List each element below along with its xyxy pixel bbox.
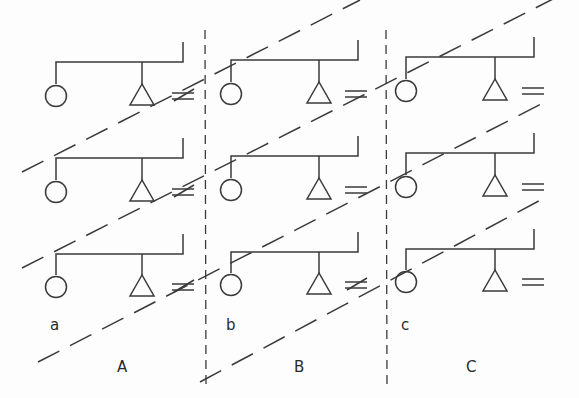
panels xyxy=(46,37,545,298)
panel-separator xyxy=(205,30,206,386)
panel-label-b: B xyxy=(294,358,304,376)
triangle-icon xyxy=(130,275,154,296)
triangle-icon xyxy=(483,79,507,100)
triangle-icon xyxy=(130,180,154,201)
equals-icon xyxy=(522,88,544,94)
sublabel-b: b xyxy=(226,316,236,334)
triangle-icon xyxy=(307,178,331,199)
panel-c xyxy=(396,37,545,293)
sublabel-a: a xyxy=(50,316,59,334)
sibship-bracket xyxy=(56,42,183,84)
diagonal-dashed-line xyxy=(38,102,545,362)
diagonal-dashed-line xyxy=(22,0,360,172)
sibship-row xyxy=(46,234,195,298)
panel-labels: a A b B c C xyxy=(50,316,476,376)
not-equal-icon xyxy=(345,278,367,290)
sibship-bracket xyxy=(231,232,358,273)
sibship-bracket xyxy=(231,136,358,178)
panel-label-c: C xyxy=(466,358,476,376)
circle-icon xyxy=(396,177,417,198)
sibship-row xyxy=(46,42,195,107)
circle-icon xyxy=(221,84,242,105)
circle-icon xyxy=(46,277,67,298)
equals-icon xyxy=(345,187,367,193)
circle-icon xyxy=(46,182,67,203)
triangle-icon xyxy=(130,84,154,105)
circle-icon xyxy=(396,81,417,102)
circle-icon xyxy=(221,275,242,296)
sibship-row xyxy=(221,136,368,201)
circle-icon xyxy=(396,272,417,293)
equals-icon xyxy=(345,91,367,97)
circle-icon xyxy=(46,86,67,107)
triangle-icon xyxy=(483,270,507,291)
diagonal-dashed-line xyxy=(200,196,548,382)
not-equal-icon xyxy=(172,280,194,292)
sibship-bracket xyxy=(231,40,358,82)
triangle-icon xyxy=(307,273,331,294)
sibship-bracket xyxy=(56,234,183,275)
sibship-bracket xyxy=(406,229,534,270)
pedigree-diagram: a A b B c C xyxy=(0,0,579,398)
sublabel-c: c xyxy=(401,316,409,334)
diagram-svg: a A b B c C xyxy=(0,0,579,398)
diagonal-dashed-line xyxy=(22,0,555,268)
panel-a xyxy=(46,42,195,298)
triangle-icon xyxy=(483,175,507,196)
sibship-bracket xyxy=(406,37,534,79)
equals-icon xyxy=(522,184,544,190)
sibship-row xyxy=(396,37,545,102)
sibship-bracket xyxy=(406,133,534,175)
sibship-row xyxy=(221,232,368,296)
equals-icon xyxy=(522,279,544,285)
sibship-row xyxy=(221,40,368,105)
panel-label-a: A xyxy=(117,358,128,376)
sibship-row xyxy=(396,133,545,198)
triangle-icon xyxy=(307,82,331,103)
circle-icon xyxy=(221,180,242,201)
